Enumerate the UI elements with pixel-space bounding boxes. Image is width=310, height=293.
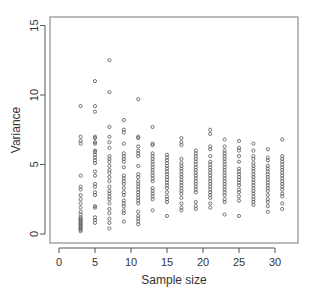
data-point	[79, 202, 82, 205]
data-point	[79, 206, 82, 209]
data-point	[108, 221, 111, 224]
data-point	[108, 202, 111, 205]
data-point	[93, 80, 96, 83]
data-point	[194, 200, 197, 203]
x-tick-label: 10	[125, 256, 137, 268]
data-point	[137, 98, 140, 101]
data-point	[108, 146, 111, 149]
data-point	[252, 142, 255, 145]
data-point	[122, 142, 125, 145]
data-point	[237, 195, 240, 198]
data-point	[209, 128, 212, 131]
x-axis-label: Sample size	[141, 273, 207, 287]
x-tick-label: 5	[92, 256, 98, 268]
data-point	[108, 164, 111, 167]
data-points	[79, 59, 284, 233]
data-point	[237, 139, 240, 142]
data-point	[151, 209, 154, 212]
x-tick-label: 0	[56, 256, 62, 268]
data-point	[79, 174, 82, 177]
x-tick-label: 20	[197, 256, 209, 268]
scatter-chart: 051015202530 051015 Sample size Variance	[0, 0, 310, 293]
data-point	[165, 191, 168, 194]
y-axis-label: Variance	[9, 106, 23, 153]
data-point	[209, 132, 212, 135]
data-point	[209, 202, 212, 205]
data-point	[108, 207, 111, 210]
data-point	[266, 148, 269, 151]
data-point	[122, 187, 125, 190]
data-point	[93, 110, 96, 113]
data-point	[108, 180, 111, 183]
data-point	[108, 175, 111, 178]
data-point	[237, 155, 240, 158]
data-point	[79, 105, 82, 108]
data-point	[108, 59, 111, 62]
plot-frame	[50, 17, 298, 243]
data-point	[108, 185, 111, 188]
data-point	[223, 213, 226, 216]
data-point	[252, 149, 255, 152]
data-point	[281, 138, 284, 141]
data-point	[93, 105, 96, 108]
data-point	[108, 125, 111, 128]
data-point	[281, 207, 284, 210]
data-point	[93, 170, 96, 173]
x-tick-label: 15	[161, 256, 173, 268]
data-point	[108, 212, 111, 215]
data-point	[79, 198, 82, 201]
data-point	[266, 205, 269, 208]
data-point	[137, 164, 140, 167]
y-tick-label: 0	[28, 231, 40, 237]
data-point	[237, 160, 240, 163]
data-point	[108, 227, 111, 230]
x-tick-label: 30	[269, 256, 281, 268]
y-axis: 051015	[28, 19, 45, 237]
data-point	[223, 138, 226, 141]
data-point	[137, 210, 140, 213]
data-point	[237, 199, 240, 202]
x-axis: 051015202530	[56, 248, 281, 268]
data-point	[137, 145, 140, 148]
y-tick-label: 10	[28, 89, 40, 101]
data-point	[237, 214, 240, 217]
data-point	[281, 202, 284, 205]
data-point	[122, 220, 125, 223]
data-point	[108, 141, 111, 144]
data-point	[122, 166, 125, 169]
data-point	[165, 214, 168, 217]
data-point	[266, 210, 269, 213]
y-tick-label: 15	[28, 19, 40, 31]
data-point	[108, 217, 111, 220]
data-point	[79, 135, 82, 138]
data-point	[151, 125, 154, 128]
data-point	[79, 193, 82, 196]
data-point	[180, 202, 183, 205]
data-point	[108, 91, 111, 94]
y-tick-label: 5	[28, 161, 40, 167]
x-tick-label: 25	[233, 256, 245, 268]
data-point	[266, 193, 269, 196]
data-point	[180, 196, 183, 199]
data-point	[180, 136, 183, 139]
data-point	[180, 157, 183, 160]
data-point	[209, 155, 212, 158]
data-point	[108, 135, 111, 138]
data-point	[223, 145, 226, 148]
data-point	[93, 174, 96, 177]
data-point	[209, 206, 212, 209]
data-point	[122, 118, 125, 121]
